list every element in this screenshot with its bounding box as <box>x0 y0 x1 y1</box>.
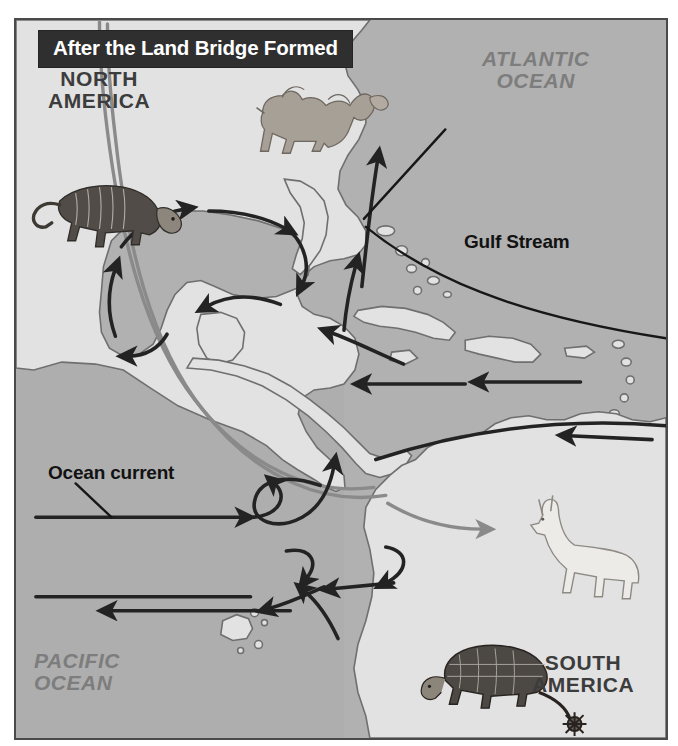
label-gulf-stream: Gulf Stream <box>464 232 570 252</box>
map-illustration <box>16 20 666 738</box>
label-atlantic-ocean: ATLANTIC OCEAN <box>482 48 589 92</box>
label-pacific-ocean: PACIFIC OCEAN <box>34 650 120 694</box>
label-south-america: SOUTH AMERICA <box>532 652 634 696</box>
label-north-america: NORTH AMERICA <box>48 68 150 112</box>
title-banner: After the Land Bridge Formed <box>38 30 353 68</box>
figure-root: After the Land Bridge Formed NORTH AMERI… <box>0 0 678 746</box>
map-frame: After the Land Bridge Formed NORTH AMERI… <box>14 18 668 740</box>
paper-grain-overlay <box>16 20 666 738</box>
title-text: After the Land Bridge Formed <box>53 36 338 59</box>
label-ocean-current: Ocean current <box>48 463 174 483</box>
